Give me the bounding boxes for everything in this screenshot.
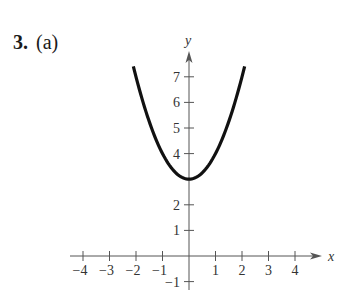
x-tick-label: 3 [265, 263, 272, 278]
y-tick-label: 4 [173, 147, 180, 162]
y-tick-label: −1 [165, 275, 180, 290]
x-tick-label: 4 [292, 263, 299, 278]
x-tick-label: −2 [126, 263, 141, 278]
tick-labels: xy−4−3−2−11234−1124567 [73, 33, 335, 290]
y-tick-label: 7 [173, 70, 180, 85]
x-tick-label: 1 [212, 263, 219, 278]
y-tick-label: 6 [173, 95, 180, 110]
y-tick-label: 2 [173, 198, 180, 213]
axes [70, 51, 322, 290]
x-tick-label: 2 [239, 263, 246, 278]
parabola-chart: xy−4−3−2−11234−1124567 [0, 0, 337, 306]
x-axis-label: x [327, 249, 335, 264]
y-tick-label: 1 [173, 223, 180, 238]
x-tick-label: −3 [99, 263, 114, 278]
y-tick-label: 5 [173, 121, 180, 136]
y-axis-label: y [183, 33, 192, 48]
x-tick-label: −4 [73, 263, 88, 278]
